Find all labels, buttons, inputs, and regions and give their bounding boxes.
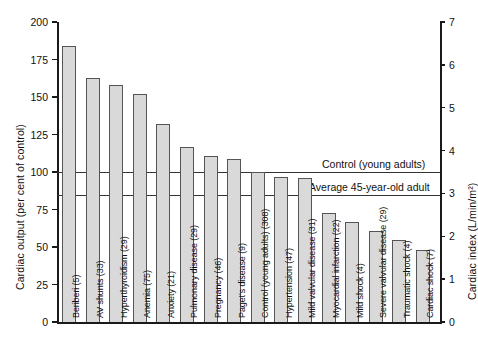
bar-category-label: Myocardial infarction (22) [332, 220, 341, 318]
y-axis-right-tick [440, 321, 445, 322]
y-axis-left-tick [52, 246, 57, 247]
y-axis-left-tick [52, 284, 57, 285]
y-axis-left-tick-label: 25 [36, 279, 48, 290]
y-axis-right-tick [440, 150, 445, 151]
y-axis-left-tick-label: 0 [42, 317, 48, 328]
y-axis-left-title: Cardiac output (per cent of control) [14, 124, 26, 290]
y-axis-right-tick [440, 64, 445, 65]
y-axis-left-tick-label: 75 [36, 204, 48, 215]
y-axis-left-tick [52, 134, 57, 135]
y-axis-right-tick-label: 4 [449, 145, 455, 156]
bar-category-label: Mild valvular disease (31) [308, 219, 317, 318]
y-axis-left-tick-label: 100 [30, 167, 48, 178]
bar-category-label: Pregnancy (46) [214, 258, 223, 318]
y-axis-right-tick [440, 107, 445, 108]
y-axis-right-tick-label: 6 [449, 60, 455, 71]
bar-category-label: Anemia (75) [143, 270, 152, 318]
bar-category-label: Hyperthyroidism (29) [120, 236, 129, 318]
y-axis-left-tick-label: 125 [30, 129, 48, 140]
bar-category-label: Anxiety (21) [167, 271, 176, 318]
bar-category-label: Severe valvular disease (29) [379, 207, 388, 318]
reference-line-label: Control (young adults) [322, 158, 425, 172]
y-axis-left-tick [52, 209, 57, 210]
y-axis-right-tick [440, 278, 445, 279]
y-axis-right-tick-label: 5 [449, 102, 455, 113]
y-axis-left-tick [52, 59, 57, 60]
y-axis-left-tick [52, 96, 57, 97]
y-axis-right-tick [440, 21, 445, 22]
bar-category-label: Hypertension (47) [285, 248, 294, 318]
bar-category-label: Paget's disease (9) [238, 243, 247, 318]
cardiac-output-bar-chart: Cardiac output (per cent of control) Car… [0, 0, 478, 346]
bar-category-label: Traumatic shock (4) [403, 241, 412, 318]
bar-category-label: AV shunts (33) [96, 261, 105, 318]
y-axis-right-tick-label: 3 [449, 188, 455, 199]
bar-category-label: Mild shock (4) [356, 263, 365, 318]
y-axis-left-tick [52, 21, 57, 22]
y-axis-left-tick-label: 175 [30, 54, 48, 65]
y-axis-left-tick-label: 50 [36, 242, 48, 253]
bar-category-label: Beriberi (5) [72, 275, 81, 318]
y-axis-right-title: Cardiac index (L/min/m²) [466, 183, 478, 300]
y-axis-left-tick [52, 321, 57, 322]
y-axis-right-tick [440, 236, 445, 237]
bar-category-label: Control (young adults) (308) [261, 209, 270, 318]
y-axis-left-tick-label: 150 [30, 92, 48, 103]
y-axis-right-tick-label: 7 [449, 17, 455, 28]
bar-category-label: Cardiac shock (7) [426, 249, 435, 318]
y-axis-right-tick [440, 193, 445, 194]
x-axis-line [57, 322, 442, 324]
y-axis-left-tick-label: 200 [30, 17, 48, 28]
y-axis-right-tick-label: 0 [449, 317, 455, 328]
reference-line-label: Average 45-year-old adult [309, 181, 430, 195]
bar-category-label: Pulmonary disease (29) [190, 225, 199, 318]
y-axis-right-line [440, 22, 442, 322]
y-axis-right-tick-label: 2 [449, 231, 455, 242]
y-axis-right-tick-label: 1 [449, 274, 455, 285]
plot-area: 0255075100125150175200 01234567 Control … [57, 22, 442, 322]
